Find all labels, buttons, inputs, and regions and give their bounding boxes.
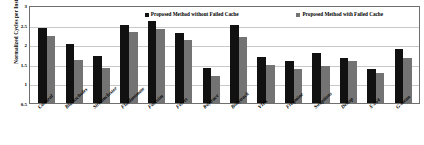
bar-group [170, 7, 197, 103]
x-axis-category-labels: CannealBlackscholesStreamclusterFluidani… [29, 104, 420, 145]
y-tick-label: 2 [13, 43, 27, 48]
bar [148, 21, 157, 103]
bar-group [335, 7, 362, 103]
bar-group [225, 7, 252, 103]
bar [340, 58, 349, 103]
bar [66, 44, 75, 103]
bar-groups [30, 7, 419, 103]
y-tick-label: 3 [13, 4, 27, 9]
y-tick-label: 1.5 [13, 62, 27, 67]
bar [175, 33, 184, 103]
bar-group [280, 7, 307, 103]
bar-group [198, 7, 225, 103]
bar-group [252, 7, 279, 103]
bar-group [307, 7, 334, 103]
y-tick-label: 1 [13, 82, 27, 87]
bar [120, 25, 129, 103]
bar [184, 40, 193, 103]
bar [230, 25, 239, 103]
bar-group [33, 7, 60, 103]
bar-group [362, 7, 389, 103]
bar [257, 57, 266, 103]
y-tick-label: 0.5 [13, 102, 27, 107]
bar [312, 53, 321, 103]
bar [156, 29, 165, 103]
bar [395, 49, 404, 103]
bar-group [143, 7, 170, 103]
chart-figure: Normalized Cycles per Instruction 32.521… [0, 0, 424, 145]
bar-group [389, 7, 416, 103]
bar [266, 65, 275, 103]
y-tick-label: 2.5 [13, 23, 27, 28]
bar [38, 28, 47, 103]
y-axis-tick-labels: 32.521.510.5 [13, 6, 27, 104]
